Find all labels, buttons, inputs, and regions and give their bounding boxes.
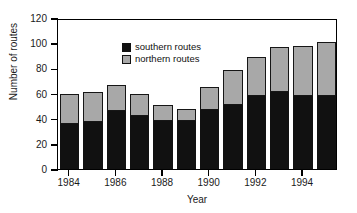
bar-segment-northern	[223, 70, 243, 105]
bar-1992	[247, 57, 267, 169]
bar-segment-northern	[107, 85, 127, 111]
bar-1987	[130, 94, 150, 170]
bar-segment-southern	[130, 116, 150, 169]
bar-segment-southern	[317, 96, 337, 169]
y-tick-label: 60	[7, 90, 47, 100]
y-tick-label: 20	[7, 140, 47, 150]
bar-1993	[270, 47, 290, 169]
bar-segment-southern	[83, 122, 103, 169]
bar-segment-northern	[247, 57, 267, 96]
legend-swatch-southern-icon	[122, 43, 131, 52]
bar-1988	[153, 105, 173, 169]
legend-swatch-northern-icon	[122, 55, 131, 64]
x-tick-mark	[115, 170, 117, 176]
legend-item-northern: northern routes	[122, 53, 201, 65]
x-tick-label: 1986	[95, 178, 135, 188]
bar-segment-northern	[293, 46, 313, 96]
bar-segment-northern	[270, 47, 290, 92]
bar-1995	[317, 42, 337, 169]
bar-segment-northern	[130, 94, 150, 117]
bar-segment-northern	[177, 109, 197, 122]
x-tick-mark	[68, 170, 70, 176]
bar-chart-figure: Number of routes 020406080100120 souther…	[0, 0, 357, 213]
y-tick-label: 0	[7, 165, 47, 175]
bar-1985	[83, 92, 103, 169]
bar-segment-southern	[200, 110, 220, 169]
legend-item-southern: southern routes	[122, 41, 201, 53]
x-tick-mark	[161, 170, 163, 176]
x-tick-mark	[255, 170, 257, 176]
x-tick-mark	[301, 170, 303, 176]
y-tick-label: 80	[7, 64, 47, 74]
bar-segment-southern	[107, 111, 127, 169]
y-tick-label: 120	[7, 14, 47, 24]
x-tick-label: 1992	[235, 178, 275, 188]
bar-segment-southern	[293, 96, 313, 169]
x-tick-label: 1988	[142, 178, 182, 188]
bar-1986	[107, 85, 127, 169]
bar-1984	[60, 94, 80, 170]
x-tick-label: 1994	[282, 178, 322, 188]
bar-1989	[177, 109, 197, 169]
bar-segment-southern	[223, 105, 243, 169]
x-tick-label: 1990	[189, 178, 229, 188]
bar-1991	[223, 70, 243, 169]
chart-legend: southern routes northern routes	[122, 41, 201, 65]
bar-1990	[200, 87, 220, 169]
x-tick-mark	[208, 170, 210, 176]
legend-label-northern: northern routes	[135, 53, 199, 65]
plot-area: southern routes northern routes	[57, 19, 337, 170]
bar-segment-northern	[83, 92, 103, 122]
y-tick-label: 100	[7, 39, 47, 49]
bar-segment-southern	[177, 121, 197, 169]
bar-segment-southern	[60, 124, 80, 169]
bar-segment-southern	[270, 92, 290, 169]
bar-1994	[293, 46, 313, 169]
bar-segment-northern	[317, 42, 337, 96]
bar-segment-southern	[153, 121, 173, 169]
bar-segment-northern	[153, 105, 173, 121]
y-tick-label: 40	[7, 115, 47, 125]
bar-segment-southern	[247, 96, 267, 169]
x-tick-label: 1984	[49, 178, 89, 188]
bar-segment-northern	[200, 87, 220, 110]
legend-label-southern: southern routes	[135, 41, 201, 53]
bar-segment-northern	[60, 94, 80, 124]
x-axis-title: Year	[57, 194, 337, 205]
